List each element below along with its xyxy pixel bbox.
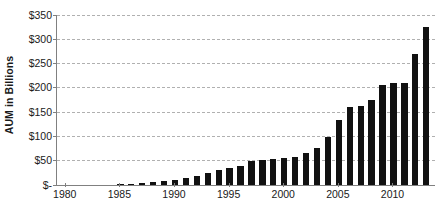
bar: [281, 158, 287, 184]
x-axis-tick-labels: 1980198519901995200020052010: [56, 188, 434, 208]
x-tick-mark: [283, 183, 284, 187]
x-tick-label: 2010: [381, 188, 404, 200]
bar: [248, 161, 254, 184]
y-tick-mark: [53, 87, 57, 88]
bar: [270, 159, 276, 184]
bar: [205, 173, 211, 185]
bar-chart: AUM in Billions $-$50$100$150$200$250$30…: [0, 0, 437, 221]
x-tick-mark: [392, 183, 393, 187]
bar: [390, 83, 396, 185]
x-tick-label: 2000: [272, 188, 295, 200]
y-tick-label: $250: [29, 57, 52, 69]
x-tick-label: 1980: [53, 188, 76, 200]
y-tick-mark: [53, 160, 57, 161]
x-tick-mark: [174, 183, 175, 187]
x-tick-label: 1995: [217, 188, 240, 200]
bar: [325, 137, 331, 184]
bar: [358, 106, 364, 185]
y-tick-mark: [53, 39, 57, 40]
bar: [183, 178, 189, 185]
y-axis-tick-labels: $-$50$100$150$200$250$300$350: [16, 0, 54, 190]
x-tick-mark: [119, 183, 120, 187]
bar: [423, 27, 429, 185]
bar: [412, 54, 418, 184]
y-axis-title-label: AUM in Billions: [3, 56, 15, 135]
bar: [161, 181, 167, 184]
x-tick-label: 2005: [326, 188, 349, 200]
bar: [347, 107, 353, 185]
y-tick-label: $100: [29, 130, 52, 142]
y-tick-mark: [53, 112, 57, 113]
bar: [194, 176, 200, 185]
x-tick-label: 1985: [108, 188, 131, 200]
bar: [368, 100, 374, 184]
bar: [303, 153, 309, 184]
y-tick-label: $350: [29, 9, 52, 21]
bar: [292, 157, 298, 185]
bar: [139, 183, 145, 184]
x-tick-mark: [229, 183, 230, 187]
y-tick-mark: [53, 136, 57, 137]
bar: [150, 182, 156, 184]
y-tick-label: $150: [29, 106, 52, 118]
y-tick-mark: [53, 63, 57, 64]
y-tick-label: $300: [29, 33, 52, 45]
bar: [237, 166, 243, 184]
y-tick-label: $50: [34, 154, 52, 166]
bar: [216, 170, 222, 185]
bar: [259, 160, 265, 184]
bar: [401, 83, 407, 184]
bar: [379, 85, 385, 185]
x-tick-label: 1990: [162, 188, 185, 200]
x-tick-mark: [338, 183, 339, 187]
y-tick-label: $-: [43, 179, 52, 191]
bars-layer: [57, 15, 435, 185]
y-tick-mark: [53, 15, 57, 16]
bar: [128, 184, 134, 185]
y-tick-mark: [53, 185, 57, 186]
x-tick-mark: [65, 183, 66, 187]
plot-area: [56, 15, 435, 186]
bar: [336, 120, 342, 185]
y-tick-label: $200: [29, 81, 52, 93]
bar: [314, 148, 320, 185]
